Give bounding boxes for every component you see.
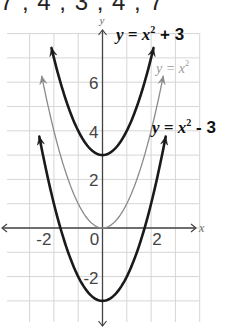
y-axis-label: y: [99, 14, 105, 26]
curve-label: y = x2: [154, 59, 189, 76]
grid: [7, 33, 200, 322]
curve-label: y = x2 + 3: [114, 24, 184, 44]
parabola-graph: xy -202642-2 y = x2 + 3y = x2y = x2 - 3: [0, 0, 233, 329]
x-axis-label: x: [198, 221, 205, 235]
y-tick-label: 6: [89, 74, 98, 93]
x-tick-label: -2: [36, 230, 51, 249]
curve-labels: y = x2 + 3y = x2y = x2 - 3: [114, 24, 216, 137]
y-tick-label: -2: [83, 269, 98, 288]
y-tick-label: 4: [89, 123, 98, 142]
x-tick-label: 0: [90, 230, 99, 249]
curve-label: y = x2 - 3: [150, 117, 216, 137]
x-tick-label: 2: [152, 230, 161, 249]
y-tick-label: 2: [89, 171, 98, 190]
